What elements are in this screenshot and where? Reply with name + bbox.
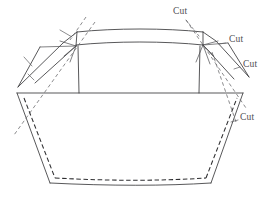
center-panel-top-outer-edge [77, 29, 203, 32]
registration-tick-left-upper [60, 30, 72, 37]
center-panel-left-corner-edge [76, 32, 77, 46]
box-pattern-drawing [0, 0, 275, 200]
stitch-line-bottom [55, 178, 206, 180]
leader-line-cut-lower-right [231, 120, 238, 122]
stitch-line-right [206, 98, 237, 178]
cut-label-upper-right: Cut [229, 35, 243, 45]
cut-label-middle-right: Cut [243, 60, 257, 70]
center-panel-top-inner-edge [76, 42, 203, 45]
center-panel-left-edge [78, 46, 79, 93]
stitch-line-left [24, 98, 55, 178]
fold-guide-right-inner [212, 52, 236, 122]
cut-label-lower-right: Cut [240, 113, 254, 123]
body-right-edge [211, 93, 243, 183]
cut-label-top: Cut [173, 7, 187, 17]
registration-tick-left-lower [28, 74, 34, 80]
fold-guide-left-short [70, 17, 86, 40]
leader-line-cut-upper-right [219, 43, 226, 44]
figure-canvas: Cut Cut Cut Cut [0, 0, 275, 200]
body-bottom-edge [50, 183, 211, 185]
leader-line-cut-middle-right [234, 67, 240, 69]
body-left-edge [17, 93, 50, 183]
left-flap-wedge-to-vertex-edge [40, 46, 76, 47]
registration-tick-left-middle [24, 57, 32, 66]
